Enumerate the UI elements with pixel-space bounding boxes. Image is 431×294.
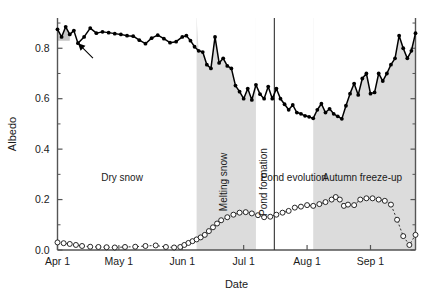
y-axis-ticks: [58, 23, 63, 250]
x-tick-label: Sep 1: [357, 255, 385, 267]
x-tick-label: Jun 1: [169, 255, 195, 267]
label-pond-evolution: Pond evolution: [261, 172, 327, 183]
label-dry-snow: Dry snow: [101, 172, 143, 183]
y-tick-label: 0.6: [35, 92, 50, 104]
x-axis-title: Date: [225, 278, 248, 290]
x-tick-label: May 1: [105, 255, 134, 267]
x-tick-label: Aug 1: [293, 255, 321, 267]
albedo-pond-fraction-figure: 0.00.20.40.60.8 Apr 1May 1Jun 1Jul 1Aug …: [0, 0, 431, 294]
label-melting-snow: Melting snow: [218, 152, 229, 211]
y-tick-label: 0.4: [35, 143, 50, 155]
y-axis-tick-labels: 0.00.20.40.60.8: [35, 42, 50, 256]
x-tick-label: Jul 1: [233, 255, 255, 267]
y-tick-label: 0.2: [35, 193, 50, 205]
x-axis-tick-labels: Apr 1May 1Jun 1Jul 1Aug 1Sep 1: [45, 255, 384, 267]
arrow-shaft: [81, 47, 93, 59]
chart-canvas: 0.00.20.40.60.8 Apr 1May 1Jun 1Jul 1Aug …: [0, 0, 431, 294]
y-tick-label: 0.8: [35, 42, 50, 54]
dip-annotation-arrow: [78, 43, 93, 58]
y-tick-label: 0.0: [35, 244, 50, 256]
label-autumn-freeze-up: Autumn freeze-up: [323, 172, 403, 183]
x-tick-label: Apr 1: [45, 255, 70, 267]
y-axis-title: Albedo: [6, 117, 18, 151]
